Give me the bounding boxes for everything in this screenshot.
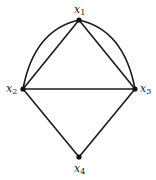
label-x1: x1 <box>74 3 85 17</box>
node-x1 <box>76 17 81 22</box>
label-x4: x4 <box>74 162 85 176</box>
node-x4 <box>76 154 81 159</box>
node-x2 <box>20 86 25 91</box>
label-x2: x2 <box>6 82 17 96</box>
graph-diagram: x1 x2 x3 x4 <box>0 0 156 180</box>
node-x3 <box>132 86 137 91</box>
edges <box>23 20 135 157</box>
edge-x3-x4 <box>79 89 135 157</box>
edge-x2-x4 <box>23 89 79 157</box>
edge-x1-x2 <box>23 20 79 89</box>
label-x3: x3 <box>140 82 151 96</box>
edge-x1-x3 <box>79 20 135 89</box>
